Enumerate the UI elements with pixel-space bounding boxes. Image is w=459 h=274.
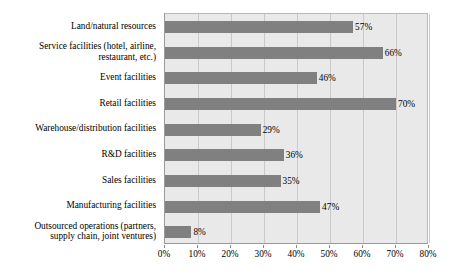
x-tick-mark xyxy=(164,245,165,248)
x-tick-mark xyxy=(296,245,297,248)
category-label-line: Warehouse/distribution facilities xyxy=(35,123,156,134)
x-tick-label: 0% xyxy=(158,249,170,259)
gridline xyxy=(429,14,430,243)
x-tick-label: 50% xyxy=(320,249,337,259)
bar-value-label: 35% xyxy=(281,175,300,187)
x-tick-label: 60% xyxy=(353,249,370,259)
bar-value-label: 47% xyxy=(320,201,339,213)
category-label: Sales facilities xyxy=(0,175,156,186)
bar xyxy=(165,72,317,84)
category-label: Warehouse/distribution facilities xyxy=(0,123,156,134)
x-tick-mark xyxy=(230,245,231,248)
x-tick-label: 10% xyxy=(188,249,205,259)
category-label: Service facilities (hotel, airline,resta… xyxy=(0,41,156,62)
bar-value-label: 66% xyxy=(383,47,402,59)
category-label: R&D facilities xyxy=(0,149,156,160)
category-label-line: Retail facilities xyxy=(99,98,156,109)
bar xyxy=(165,149,284,161)
x-tick-mark xyxy=(263,245,264,248)
category-label-line: restaurant, etc.) xyxy=(98,52,156,63)
bar-value-label: 36% xyxy=(284,149,303,161)
x-tick-mark xyxy=(362,245,363,248)
value-axis: 0%10%20%30%40%50%60%70%80% xyxy=(164,245,428,265)
bar xyxy=(165,226,191,238)
x-tick-label: 20% xyxy=(221,249,238,259)
category-axis: Land/natural resourcesService facilities… xyxy=(0,13,160,244)
x-tick-label: 80% xyxy=(419,249,436,259)
category-label: Land/natural resources xyxy=(0,21,156,32)
bar xyxy=(165,47,383,59)
bar xyxy=(165,98,396,110)
bar-value-label: 29% xyxy=(261,124,280,136)
category-label-line: Land/natural resources xyxy=(71,21,156,32)
plot-area: 57%66%46%70%29%36%35%47%8% xyxy=(164,13,428,244)
category-label-line: Manufacturing facilities xyxy=(66,200,156,211)
category-label: Event facilities xyxy=(0,72,156,83)
x-tick-label: 70% xyxy=(386,249,403,259)
bar xyxy=(165,175,281,187)
category-label: Retail facilities xyxy=(0,98,156,109)
bar xyxy=(165,21,353,33)
x-tick-label: 30% xyxy=(254,249,271,259)
category-label-line: Service facilities (hotel, airline, xyxy=(39,41,156,52)
category-label-line: Event facilities xyxy=(100,72,156,83)
category-label-line: Sales facilities xyxy=(102,175,156,186)
x-tick-mark xyxy=(395,245,396,248)
bar-value-label: 46% xyxy=(317,72,336,84)
bar xyxy=(165,124,261,136)
x-tick-mark xyxy=(428,245,429,248)
bar-value-label: 57% xyxy=(353,21,372,33)
bar xyxy=(165,201,320,213)
category-label: Manufacturing facilities xyxy=(0,200,156,211)
bar-value-label: 70% xyxy=(396,98,415,110)
x-tick-label: 40% xyxy=(287,249,304,259)
x-tick-mark xyxy=(329,245,330,248)
bar-value-label: 8% xyxy=(191,226,205,238)
category-label-line: supply chain, joint ventures) xyxy=(50,231,156,242)
category-label: Outsourced operations (partners,supply c… xyxy=(0,221,156,242)
bar-chart: Land/natural resourcesService facilities… xyxy=(0,0,459,274)
category-label-line: R&D facilities xyxy=(102,149,156,160)
category-label-line: Outsourced operations (partners, xyxy=(34,221,156,232)
x-tick-mark xyxy=(197,245,198,248)
